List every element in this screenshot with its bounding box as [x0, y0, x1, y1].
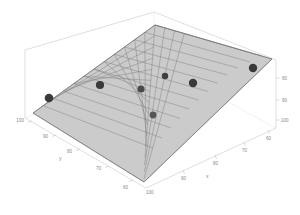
data-point — [249, 64, 257, 72]
x-axis-tick-labels: 90 80 70 60 — [181, 136, 272, 181]
x-tick-label: 70 — [242, 148, 248, 153]
z-tick-label: 80 — [282, 76, 288, 81]
x-tick — [268, 130, 270, 134]
y-tick-label: 60 — [123, 185, 129, 190]
y-tick-label: 80 — [67, 149, 73, 154]
y-axis-title: y — [59, 155, 62, 161]
data-point — [96, 81, 104, 89]
z-tick-label: 100 — [281, 118, 289, 123]
y-tick — [129, 180, 133, 182]
y-tick — [105, 166, 109, 168]
z-tick-label: 90 — [282, 98, 288, 103]
z-axis-tick-labels: 80 90 100 — [281, 76, 289, 123]
y-tick-label: 90 — [43, 134, 49, 139]
x-axis-title: x — [206, 173, 209, 179]
data-point — [45, 94, 54, 103]
corner-tick-label: 100 — [146, 190, 154, 195]
x-tick-label: 80 — [213, 161, 219, 166]
data-point — [137, 85, 144, 92]
data-point — [162, 73, 168, 79]
x-tick-label: 90 — [181, 176, 187, 181]
data-point — [189, 79, 197, 87]
plot-3d-surface-scatter: 100 90 80 70 60 90 80 70 60 80 90 100 10… — [0, 0, 300, 215]
extra-corner-labels: 100 — [146, 190, 154, 195]
x-tick-label: 60 — [266, 136, 272, 141]
y-tick-label: 100 — [16, 118, 24, 123]
y-tick-label: 70 — [96, 166, 102, 171]
plot-canvas: 100 90 80 70 60 90 80 70 60 80 90 100 10… — [0, 0, 300, 215]
surface-plane — [33, 25, 272, 182]
data-point — [150, 112, 157, 119]
